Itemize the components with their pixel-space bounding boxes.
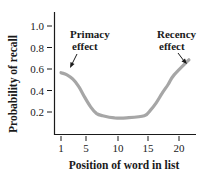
- x-tick-label: 20: [174, 142, 186, 154]
- primacy-arrow-icon: [70, 54, 77, 68]
- y-tick-label: 0.6: [30, 63, 44, 75]
- serial-position-chart: 1.0 0.8 0.6 0.4 0.2 1 5 10 15 20 Positio…: [0, 0, 208, 182]
- x-tick-label: 1: [58, 142, 64, 154]
- recency-arrow-icon: [178, 53, 187, 64]
- primacy-label-effect: effect: [72, 40, 98, 52]
- x-ticks: 1 5 10 15 20: [58, 136, 185, 154]
- x-tick-label: 10: [113, 142, 125, 154]
- y-tick-label: 1.0: [30, 20, 44, 32]
- recency-label-effect: effect: [159, 40, 185, 52]
- recall-curve: [61, 60, 189, 118]
- y-tick-label: 0.4: [30, 85, 44, 97]
- x-axis-label: Position of word in list: [69, 159, 180, 171]
- y-axis-label: Probability of recall: [7, 35, 20, 133]
- x-tick-label: 5: [83, 142, 89, 154]
- primacy-label: Primacy: [70, 28, 110, 40]
- recency-label: Recency: [157, 28, 197, 40]
- y-tick-label: 0.8: [30, 42, 44, 54]
- y-tick-label: 0.2: [30, 106, 44, 118]
- y-ticks: 1.0 0.8 0.6 0.4 0.2: [30, 20, 52, 118]
- x-tick-label: 15: [143, 142, 155, 154]
